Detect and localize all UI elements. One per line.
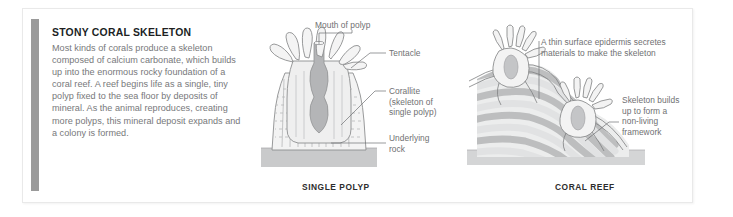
- polyp-gullet-shape: [310, 43, 328, 133]
- accent-bar: [31, 19, 39, 191]
- caption-single-polyp: SINGLE POLYP: [302, 182, 370, 192]
- label-skeleton-builds: Skeleton builds up to form a non-living …: [622, 95, 679, 137]
- label-tentacle: Tentacle: [389, 48, 421, 59]
- caption-coral-reef: CORAL REEF: [555, 182, 615, 192]
- label-surface-epidermis: A thin surface epidermis secretes materi…: [541, 37, 666, 58]
- underlying-rock-shape: [261, 148, 377, 167]
- label-mouth-of-polyp: Mouth of polyp: [315, 20, 371, 31]
- diagram-single-polyp: Mouth of polyp Tentacle Corallite (skele…: [255, 17, 459, 202]
- diagram-coral-reef: A thin surface epidermis secretes materi…: [459, 17, 691, 202]
- label-corallite: Corallite (skeleton of single polyp): [389, 86, 437, 118]
- page-title: STONY CORAL SKELETON: [52, 26, 242, 39]
- description-text: STONY CORAL SKELETON Most kinds of coral…: [52, 26, 242, 139]
- label-underlying-rock: Underlying rock: [389, 133, 429, 154]
- stony-coral-skeleton-figure: STONY CORAL SKELETON Most kinds of coral…: [0, 0, 733, 217]
- description-column: STONY CORAL SKELETON Most kinds of coral…: [31, 19, 243, 191]
- figure-panel-frame: STONY CORAL SKELETON Most kinds of coral…: [22, 8, 693, 203]
- description-paragraph: Most kinds of corals produce a skeleton …: [52, 42, 242, 139]
